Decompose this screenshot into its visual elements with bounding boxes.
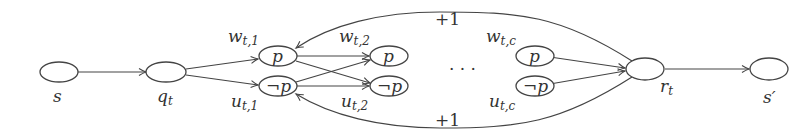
weight-w2: wt,2: [339, 26, 370, 48]
node-s-prime: [750, 58, 788, 80]
bottom-edge-label: +1: [435, 110, 460, 130]
weight-u1: ut,1: [231, 91, 258, 113]
node-q: [146, 62, 186, 82]
node-r: [626, 58, 664, 80]
top-edge-label: +1: [435, 9, 460, 29]
ellipsis: · · ·: [449, 59, 476, 79]
edge-np1-p2: [296, 60, 370, 82]
label-p1: p: [272, 46, 283, 66]
weight-wc: wt,c: [486, 26, 516, 48]
edge-p1-np2: [296, 61, 370, 83]
edge-q-p1: [186, 59, 258, 69]
label-pc: p: [529, 46, 540, 66]
weight-w1: wt,1: [228, 26, 259, 48]
label-np2: ¬p: [377, 76, 402, 96]
label-q: qt: [157, 86, 173, 108]
label-s: s: [53, 86, 62, 106]
weight-uc: ut,c: [489, 91, 516, 113]
label-p2: p: [383, 46, 394, 66]
label-s-prime: s′: [763, 87, 776, 107]
node-s: [40, 62, 78, 82]
label-r: rt: [660, 76, 673, 98]
edge-q-np1: [186, 75, 258, 85]
label-np1: ¬p: [266, 76, 291, 96]
label-npc: ¬p: [523, 76, 548, 96]
edge-pc-r: [550, 57, 625, 68]
edge-npc-r: [550, 71, 625, 84]
graph-diagram: s qt p ¬p p ¬p p ¬p rt s′ wt,1 ut,1 wt,2…: [0, 0, 810, 140]
weight-u2: ut,2: [341, 91, 368, 113]
